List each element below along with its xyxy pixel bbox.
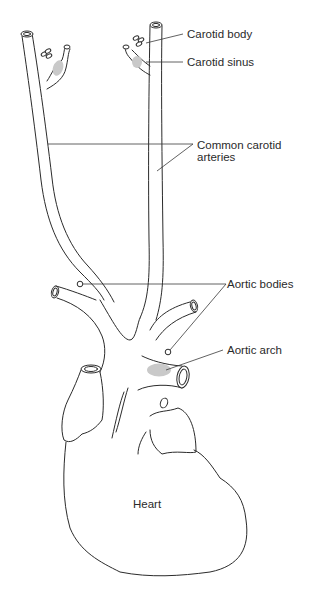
label-common-carotid-line1: Common carotid [197,139,281,151]
label-aortic-bodies: Aortic bodies [227,278,293,290]
right-carotid-body [133,35,145,47]
aortic-body-right [165,349,171,355]
aortic-body-left [77,281,83,287]
right-carotid-sinus-shading [132,56,142,68]
left-carotid-artery [21,31,114,302]
aortic-arch-lumen [175,365,191,389]
label-common-carotid-line2: arteries [197,151,235,163]
label-carotid-sinus: Carotid sinus [187,56,254,68]
label-carotid-body: Carotid body [187,28,252,40]
label-heart: Heart [133,498,161,510]
label-aortic-arch: Aortic arch [227,344,282,356]
leader-aortic-body-right [170,284,226,350]
leader-carotid-body [146,34,183,43]
aortic-arch [50,281,199,390]
subclavian-lumen [50,285,60,298]
heart [62,365,247,576]
leader-aortic-arch [166,350,223,370]
leader-lines [48,34,226,370]
aortic-arch-shading [147,364,171,377]
right-subclavian-lumen [189,299,199,312]
left-carotid-body [41,48,53,59]
